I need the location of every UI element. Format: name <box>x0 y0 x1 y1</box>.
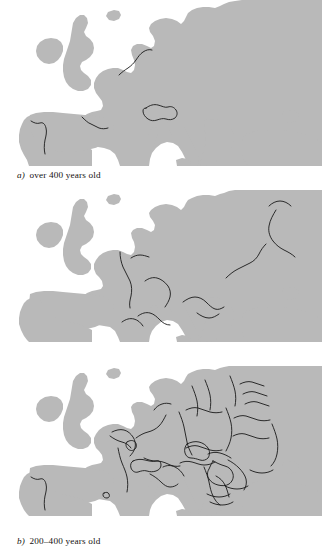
map-panel-c: c)under 200 years old <box>0 366 322 547</box>
caption-a-text: over 400 years old <box>30 170 101 180</box>
map-b-svg <box>0 190 322 342</box>
map-a-canvas <box>0 0 322 166</box>
map-panel-a: a)over 400 years old <box>0 0 322 190</box>
map-a-svg <box>0 0 322 166</box>
map-c-canvas <box>0 366 322 516</box>
map-c-svg <box>0 366 322 516</box>
caption-a-label: a) <box>17 170 25 180</box>
figure-europe-border-age: a)over 400 years old <box>0 0 322 547</box>
map-b-canvas <box>0 190 322 342</box>
caption-a: a)over 400 years old <box>17 170 101 181</box>
map-panel-b: b)200–400 years old <box>0 190 322 366</box>
